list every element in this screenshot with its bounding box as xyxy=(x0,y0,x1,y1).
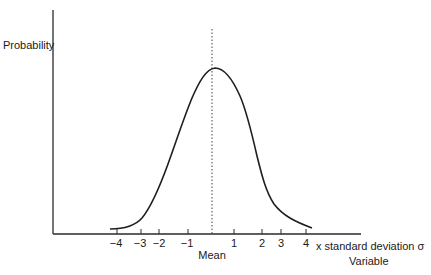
x-axis-sublabel: Variable xyxy=(349,256,389,267)
tick-label-3: 3 xyxy=(278,238,284,249)
y-axis-label: Probability xyxy=(3,40,54,51)
x-axis-label: x standard deviation σ xyxy=(316,241,424,252)
tick-label-neg4: −4 xyxy=(110,238,123,249)
tick-label-1: 1 xyxy=(231,238,237,249)
bell-curve xyxy=(110,68,312,229)
tick-label-neg1: −1 xyxy=(181,238,194,249)
tick-label-neg3: −3 xyxy=(134,238,147,249)
tick-label-4: 4 xyxy=(303,238,309,249)
normal-distribution-chart xyxy=(0,0,431,275)
tick-label-neg2: −2 xyxy=(153,238,166,249)
mean-label: Mean xyxy=(198,250,226,261)
tick-label-2: 2 xyxy=(259,238,265,249)
